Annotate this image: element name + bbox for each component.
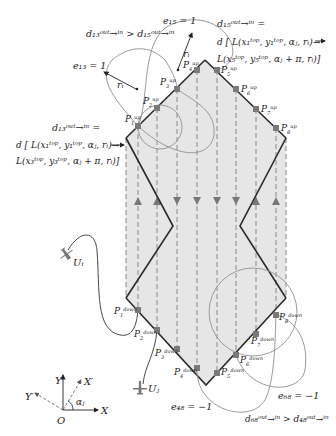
waypoint-p3-up — [174, 86, 180, 92]
d68-compare-label: d₆₈ᵒᵘᵗ→ⁱⁿ > d₄₈ᵒᵘᵗ→ⁱⁿ — [245, 414, 329, 424]
origin-label: O — [57, 415, 65, 426]
coverage-diagram: P1up P2up P3up P4up P5up P6up P7up P8up … — [0, 0, 336, 436]
waypoint-p6-down — [233, 352, 239, 358]
label-p7-up: P7up — [260, 104, 277, 116]
label-p6-down: P6down — [239, 355, 263, 367]
ri-label-top: rᵢ — [183, 48, 190, 59]
waypoint-p6-up — [233, 86, 239, 92]
label-p3-down: P3down — [154, 348, 178, 360]
d13-formula-line1: d [ L(x₁ᵗᵒᵖ, y₁ᵗᵒᵖ, αⱼ, rᵢ)→ — [16, 140, 120, 150]
waypoint-p5-up — [214, 67, 220, 73]
angle-arc — [68, 401, 73, 410]
d15-formula-title: d₁₅ᵒᵘᵗ→ⁱⁿ = — [217, 18, 265, 29]
y-prime-axis — [35, 393, 63, 410]
waypoint-p5-down — [214, 370, 220, 376]
label-p2-down: P2down — [133, 329, 157, 341]
d13-formula-title: d₁₃ᵒᵘᵗ→ⁱⁿ = — [52, 122, 100, 133]
aircraft-icon — [133, 381, 147, 395]
center-dot — [177, 69, 180, 72]
uav-j-label: Uⱼ — [148, 383, 159, 394]
label-p5-up: P5up — [220, 65, 237, 77]
label-p5-down: P5down — [220, 367, 244, 379]
waypoint-p7-up — [253, 106, 259, 112]
uav-j: Uⱼ — [133, 381, 159, 395]
label-p8-up: P8up — [280, 123, 297, 135]
e15-label: e₁₅ = 1 — [163, 15, 196, 26]
center-dot — [136, 88, 139, 91]
label-p4-down: P4down — [173, 367, 197, 379]
waypoint-p4-up — [194, 67, 200, 73]
waypoint-p2-up — [154, 105, 160, 111]
e48-label: e₄₈ = −1 — [171, 401, 212, 412]
x-prime-label: X′ — [83, 376, 94, 387]
waypoint-p1-up — [135, 123, 141, 129]
d15-formula-line2: L(x₅ᵗᵒᵖ, y₅ᵗᵒᵖ, αⱼ + π, rᵢ)] — [216, 54, 321, 64]
d15-formula-line1: d [ L(x₁ᵗᵒᵖ, y₁ᵗᵒᵖ, αⱼ, rᵢ)→ — [217, 37, 321, 47]
e13-label: e₁₃ = 1 — [73, 60, 106, 71]
y-prime-label: Y′ — [25, 391, 35, 402]
label-p3-up: P3up — [159, 77, 176, 89]
waypoint-p8-up — [273, 125, 279, 131]
label-p7-down: P7down — [250, 336, 274, 348]
y-axis-label: Y — [55, 375, 63, 386]
coordinate-axes: O X Y X′ Y′ αⱼ — [25, 375, 109, 426]
x-axis-label: X — [100, 405, 109, 416]
uav-i-label: Uᵢ — [73, 257, 83, 268]
uav-i: Uᵢ — [57, 244, 84, 268]
e68-label: e₆₈ = −1 — [278, 390, 319, 401]
d13-formula-line2: L(x₃ᵗᵒᵖ, y₃ᵗᵒᵖ, αⱼ + π, rᵢ)] — [15, 156, 120, 166]
label-p6-up: P6up — [240, 84, 257, 96]
angle-label: αⱼ — [76, 397, 85, 407]
ri-label-left: rᵢ — [117, 79, 124, 90]
d13-compare-label: d₁₃ᵒᵘᵗ→ⁱⁿ > d₁₅ᵒᵘᵗ→ⁱⁿ — [86, 28, 175, 39]
label-p1-down: P1down — [113, 306, 137, 318]
